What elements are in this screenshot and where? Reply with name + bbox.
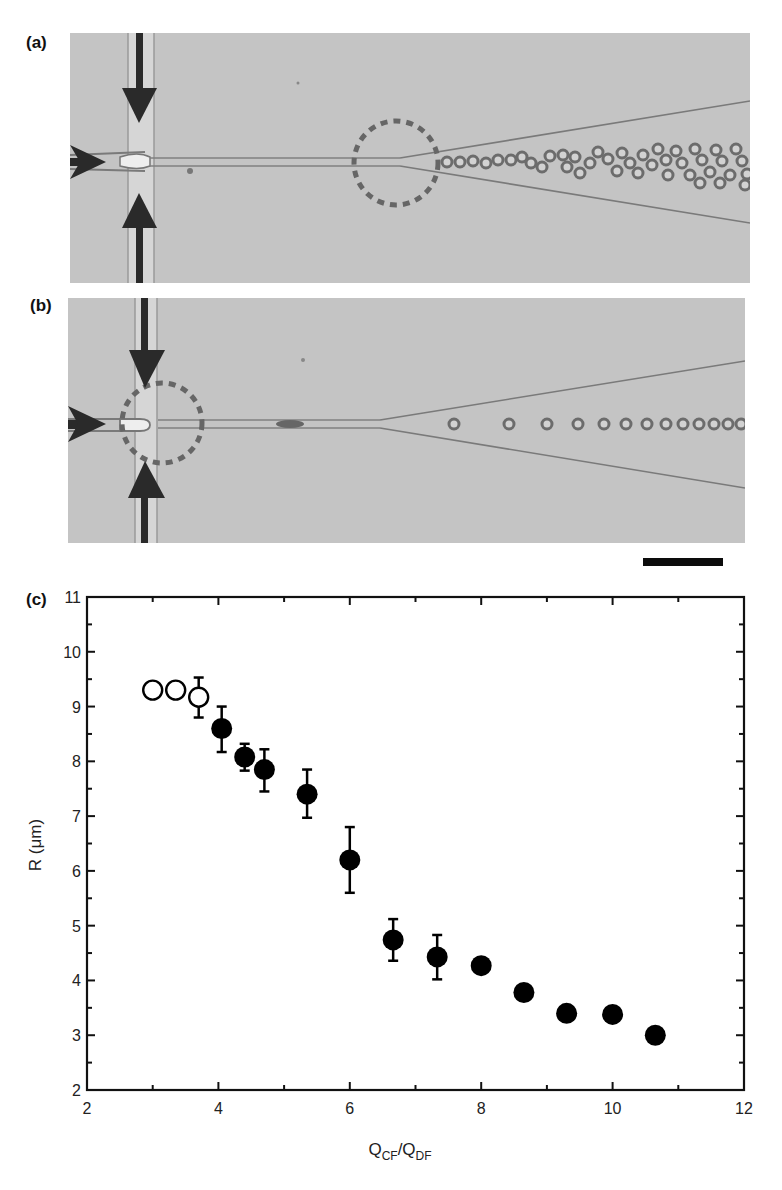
scale-bar	[643, 558, 723, 566]
y-tick-label: 7	[72, 808, 81, 825]
y-tick-label: 6	[72, 863, 81, 880]
filled-data-point	[645, 1025, 666, 1046]
micrograph-panel-a	[70, 33, 750, 283]
filled-data-point	[211, 718, 232, 739]
filled-data-point	[383, 929, 404, 950]
filled-data-point	[602, 1004, 623, 1025]
y-tick-label: 10	[63, 644, 81, 661]
filled-data-point	[471, 955, 492, 976]
open-data-point	[143, 681, 162, 700]
y-tick-label: 3	[72, 1027, 81, 1044]
x-tick-label: 12	[735, 1100, 753, 1117]
filled-data-point	[254, 759, 275, 780]
radius-vs-flow-ratio-chart: 24681012234567891011 R (μm) QCF/QDF	[0, 580, 782, 1190]
open-data-point	[166, 681, 185, 700]
x-tick-label: 4	[214, 1100, 223, 1117]
panel-label-b: (b)	[30, 296, 52, 316]
filled-data-point	[234, 746, 255, 767]
x-axis-title: QCF/QDF	[368, 1140, 431, 1163]
y-tick-label: 5	[72, 918, 81, 935]
y-tick-label: 9	[72, 699, 81, 716]
open-data-point	[189, 688, 208, 707]
x-tick-label: 2	[83, 1100, 92, 1117]
x-tick-label: 6	[345, 1100, 354, 1117]
filled-data-point	[297, 784, 318, 805]
plot-frame	[87, 597, 744, 1090]
filled-data-point	[513, 982, 534, 1003]
y-tick-label: 8	[72, 753, 81, 770]
x-tick-label: 10	[604, 1100, 622, 1117]
x-tick-label: 8	[477, 1100, 486, 1117]
micrograph-panel-b	[68, 298, 745, 543]
filled-data-point	[339, 849, 360, 870]
filled-data-point	[556, 1003, 577, 1024]
y-tick-label: 2	[72, 1082, 81, 1099]
y-axis-title: R (μm)	[26, 819, 45, 871]
panel-label-a: (a)	[26, 33, 47, 53]
chart-data-points	[143, 678, 666, 1046]
y-tick-label: 11	[64, 589, 81, 606]
filled-data-point	[427, 946, 448, 967]
y-tick-label: 4	[72, 972, 81, 989]
